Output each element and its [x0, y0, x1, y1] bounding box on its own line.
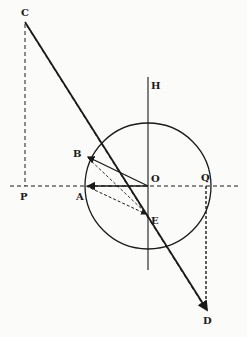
label-Q: Q [201, 173, 210, 183]
label-B: B [73, 149, 81, 159]
segment-OB [88, 157, 148, 186]
label-A: A [76, 192, 84, 202]
label-C: C [21, 8, 29, 18]
label-O: O [151, 174, 160, 184]
diagram-drawing [0, 0, 247, 337]
segment-COD [25, 22, 207, 310]
label-H: H [151, 81, 160, 91]
geometry-diagram: C H B O Q P A E D [0, 0, 247, 337]
label-D: D [203, 316, 212, 326]
label-P: P [20, 192, 28, 202]
label-E: E [151, 216, 159, 226]
